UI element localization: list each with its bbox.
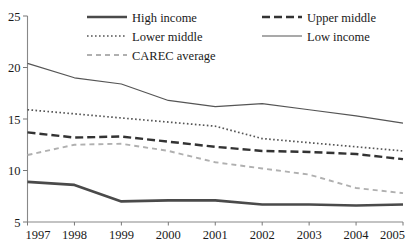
x-tick-label-2005: 2005 — [380, 228, 405, 242]
series-line-carec-average — [28, 144, 404, 193]
series-line-upper-middle — [28, 132, 404, 159]
x-tick-label-1997: 1997 — [26, 228, 51, 242]
legend-label-low-income: Low income — [307, 30, 370, 44]
legend-label-upper-middle: Upper middle — [307, 11, 377, 25]
y-tick-label-5: 5 — [14, 216, 20, 230]
x-tick-label-2004: 2004 — [344, 228, 370, 242]
x-tick-label-2000: 2000 — [156, 228, 181, 242]
line-chart: 5101520251997199819992000200120022003200… — [0, 0, 412, 249]
x-tick-label-1998: 1998 — [62, 228, 87, 242]
y-tick-label-25: 25 — [8, 10, 21, 24]
x-tick-label-2002: 2002 — [250, 228, 275, 242]
y-tick-label-20: 20 — [8, 61, 21, 75]
legend-label-lower-middle: Lower middle — [132, 30, 203, 44]
x-tick-label-1999: 1999 — [109, 228, 134, 242]
legend-label-high-income: High income — [132, 11, 197, 25]
chart-canvas: 5101520251997199819992000200120022003200… — [0, 0, 412, 249]
legend-label-carec-average: CAREC average — [132, 49, 216, 63]
x-tick-label-2001: 2001 — [203, 228, 228, 242]
y-tick-label-15: 15 — [8, 113, 21, 127]
x-tick-label-2003: 2003 — [297, 228, 322, 242]
y-tick-label-10: 10 — [8, 164, 21, 178]
